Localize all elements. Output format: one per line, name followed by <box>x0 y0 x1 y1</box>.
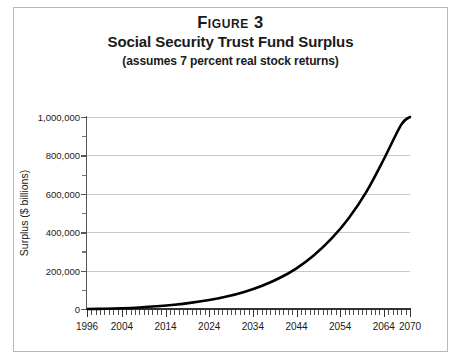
figure-title-block: Figure 3 Social Security Trust Fund Surp… <box>13 12 448 71</box>
y-axis-tick-label: 600,000 <box>46 188 80 199</box>
y-axis-tick-label: 0 <box>75 304 80 315</box>
x-axis-tick-label: 2004 <box>111 321 133 332</box>
x-axis-tick-label: 1996 <box>76 321 98 332</box>
x-axis-tick-label: 2070 <box>399 321 421 332</box>
x-axis-tick-label: 2044 <box>285 321 307 332</box>
y-axis-tick-label: 800,000 <box>46 150 80 161</box>
x-axis-tick-label: 2054 <box>329 321 351 332</box>
x-axis-tick-label: 2034 <box>242 321 264 332</box>
x-axis-tick-label: 2064 <box>373 321 395 332</box>
y-axis-tick-label: 1,000,000 <box>38 112 80 123</box>
x-axis-tick-label: 2024 <box>198 321 220 332</box>
y-axis-labels: 0200,000400,000600,000800,0001,000,000 <box>0 117 80 309</box>
figure-subtitle: (assumes 7 percent real stock returns) <box>13 52 448 71</box>
x-axis-labels: 199620042014202420342044205420642070 <box>40 321 450 335</box>
x-axis-tick-label: 2014 <box>154 321 176 332</box>
y-axis-tick-label: 400,000 <box>46 227 80 238</box>
figure-number: Figure 3 <box>13 12 448 32</box>
y-axis-tick-label: 200,000 <box>46 265 80 276</box>
data-series-curve <box>87 110 417 315</box>
page-title: Social Security Trust Fund Surplus <box>13 32 448 52</box>
